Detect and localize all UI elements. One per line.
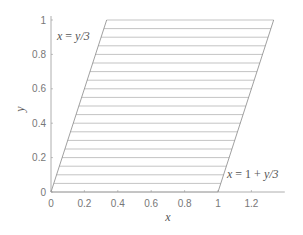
y-tick-label: 0.2 xyxy=(32,152,46,163)
y-tick-label: 0 xyxy=(40,187,46,198)
y-tick-label: 0.6 xyxy=(32,83,46,94)
x-tick-label: 1 xyxy=(215,198,221,209)
x-tick-label: 0.4 xyxy=(111,198,125,209)
x-tick-label: 0.2 xyxy=(77,198,91,209)
right-boundary-annotation: x = 1 + y/3 xyxy=(226,167,279,181)
y-tick-label: 0.8 xyxy=(32,49,46,60)
left-boundary-annotation: x = y/3 xyxy=(56,29,90,43)
x-tick-label: 1.2 xyxy=(244,198,258,209)
x-tick-label: 0 xyxy=(48,198,54,209)
chart: 00.20.40.60.811.2 00.20.40.60.81 x y x =… xyxy=(0,0,303,235)
y-tick-labels: 00.20.40.60.81 xyxy=(32,15,46,198)
y-tick-label: 1 xyxy=(40,15,46,26)
y-axis-label: y xyxy=(13,106,27,113)
x-tick-label: 0.6 xyxy=(144,198,158,209)
y-tick-label: 0.4 xyxy=(32,118,46,129)
x-tick-labels: 00.20.40.60.811.2 xyxy=(48,198,259,209)
x-tick-label: 0.8 xyxy=(178,198,192,209)
x-axis-label: x xyxy=(164,210,171,224)
